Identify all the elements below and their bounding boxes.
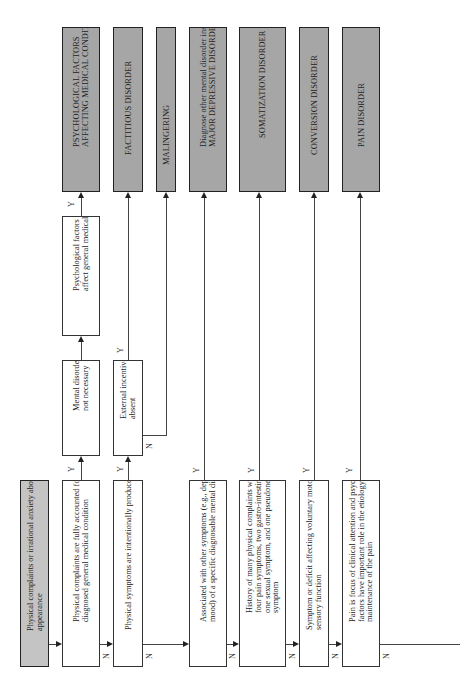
diagnosis-label: CONVERSION DISORDER [311, 55, 320, 155]
edge-label-yes: Y [303, 466, 311, 474]
mental-disorder-box: Mental disorder diagnosis not necessary [62, 360, 100, 456]
edge-label-no: N [229, 652, 237, 660]
connector-line [128, 460, 129, 480]
connector-line [380, 644, 460, 645]
diagnosis-pain-disorder: PAIN DISORDER [342, 27, 380, 192]
arrow-up-icon [256, 192, 262, 198]
arrow-right-icon [107, 641, 113, 647]
arrow-right-icon [56, 641, 62, 647]
question-somatization-history: History of many physical complaints with… [239, 480, 286, 667]
arrow-right-icon [336, 641, 342, 647]
edge-label-no: N [332, 652, 340, 660]
arrow-up-icon [78, 192, 84, 198]
arrow-up-icon [357, 192, 363, 198]
diagnosis-label: Diagnose other mental disorder instead (… [200, 27, 217, 147]
question-intentionally-produced: Physical symptoms are intentionally prod… [113, 480, 143, 667]
question-other-mental-disorder: Associated with other symptoms (e.g., de… [189, 480, 227, 667]
arrow-up-icon [78, 336, 84, 342]
question-pain-focus: Pain is focus of clinical attention and … [342, 480, 380, 667]
connector-line [314, 196, 315, 480]
connector-line [143, 435, 167, 436]
box-label: External incentives are absent [120, 360, 137, 419]
arrow-up-icon [201, 192, 207, 198]
connector-line [81, 460, 82, 480]
connector-line [259, 196, 260, 480]
arrow-up-icon [125, 192, 131, 198]
psych-factors-box: Psychological factors adversely affect g… [62, 216, 100, 336]
arrow-up-icon [125, 456, 131, 462]
box-label: Symptom or deficit affecting voluntary m… [306, 480, 323, 630]
box-label: History of many physical complaints with… [246, 480, 280, 613]
connector-line [128, 196, 129, 360]
edge-label-no: N [146, 652, 154, 660]
connector-line [204, 196, 205, 480]
diagnosis-psych-factors-affecting-medical-condition: PSYCHOLOGICAL FACTORS AFFECTING MEDICAL … [62, 27, 100, 192]
edge-label-yes: Y [117, 465, 125, 473]
edge-label-yes: Y [68, 200, 76, 208]
question-voluntary-motor-sensory: Symptom or deficit affecting voluntary m… [299, 480, 329, 667]
diagnosis-label: FACTITIOUS DISORDER [125, 61, 134, 155]
box-label: Psychological factors adversely affect g… [73, 216, 90, 291]
arrow-up-icon [163, 192, 169, 198]
diagnosis-label: PSYCHOLOGICAL FACTORS AFFECTING MEDICAL … [73, 27, 90, 147]
connector-line [166, 196, 167, 436]
diagnosis-other-mental-disorder: Diagnose other mental disorder instead (… [189, 27, 227, 192]
edge-label-no: N [383, 652, 391, 660]
arrow-right-icon [183, 641, 189, 647]
edge-label-yes: Y [117, 346, 125, 354]
diagnosis-factitious-disorder: FACTITIOUS DISORDER [113, 27, 143, 192]
start-box: Physical complaints or irrational anxiet… [20, 480, 49, 667]
external-incentives-box: External incentives are absent [113, 360, 143, 456]
box-label: Physical symptoms are intentionally prod… [125, 480, 134, 630]
box-label: Associated with other symptoms (e.g., de… [200, 480, 217, 622]
diagnosis-label: PAIN DISORDER [358, 83, 367, 147]
arrow-up-icon [78, 456, 84, 462]
diagnosis-conversion-disorder: CONVERSION DISORDER [299, 27, 329, 192]
connector-line [360, 196, 361, 480]
edge-label-no: N [146, 442, 154, 450]
box-label: Physical complaints are fully accounted … [73, 480, 90, 622]
arrow-right-icon [293, 641, 299, 647]
diagnosis-malingering: MALINGERING [156, 27, 176, 192]
edge-label-no: N [103, 652, 111, 660]
edge-label-yes: Y [346, 466, 354, 474]
diagnosis-label: SOMATIZATION DISORDER [259, 31, 268, 138]
diagnosis-somatization-disorder: SOMATIZATION DISORDER [239, 27, 286, 192]
arrow-up-icon [311, 192, 317, 198]
connector-line [81, 340, 82, 360]
edge-label-no: N [289, 652, 297, 660]
box-label: Physical complaints or irrational anxiet… [27, 480, 44, 631]
edge-label-yes: Y [248, 466, 256, 474]
arrow-right-icon [233, 641, 239, 647]
connector-line [143, 644, 184, 645]
edge-label-yes: Y [68, 465, 76, 473]
connector-line [81, 196, 82, 216]
box-label: Pain is focus of clinical attention and … [349, 480, 375, 622]
box-label: Mental disorder diagnosis not necessary [73, 360, 90, 411]
edge-label-yes: Y [193, 466, 201, 474]
diagnosis-label: MALINGERING [163, 105, 172, 165]
question-medical-condition: Physical complaints are fully accounted … [62, 480, 100, 667]
